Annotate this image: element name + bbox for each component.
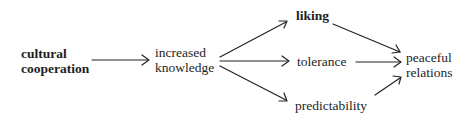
node-liking-label: liking <box>296 8 329 23</box>
node-predictability-label: predictability <box>295 98 367 113</box>
node-peaceful-relations-line1: peaceful <box>406 50 453 65</box>
arrow-cultural-to-knowledge <box>92 55 149 65</box>
node-predictability: predictability <box>295 98 367 113</box>
node-peaceful-relations: peaceful relations <box>406 50 453 80</box>
node-peaceful-relations-line2: relations <box>406 65 453 80</box>
node-cultural-cooperation: cultural cooperation <box>21 46 89 76</box>
node-cultural-cooperation-line2: cooperation <box>21 61 89 76</box>
arrow-knowledge-to-liking <box>220 21 287 57</box>
node-increased-knowledge: increased knowledge <box>155 45 214 75</box>
node-liking: liking <box>296 8 329 23</box>
arrow-predictability-to-peaceful <box>375 76 401 95</box>
node-tolerance: tolerance <box>297 54 346 69</box>
node-cultural-cooperation-line1: cultural <box>21 46 89 61</box>
causal-flow-diagram: cultural cooperation increased knowledge… <box>0 0 476 121</box>
arrow-knowledge-to-tolerance <box>220 56 289 66</box>
arrow-knowledge-to-predictability <box>220 66 287 101</box>
arrow-liking-to-peaceful <box>333 24 400 53</box>
node-tolerance-label: tolerance <box>297 54 346 69</box>
node-increased-knowledge-line1: increased <box>155 45 214 60</box>
arrow-tolerance-to-peaceful <box>356 57 401 67</box>
node-increased-knowledge-line2: knowledge <box>155 60 214 75</box>
